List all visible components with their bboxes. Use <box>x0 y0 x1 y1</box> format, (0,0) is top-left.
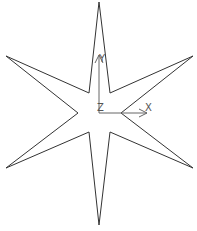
z-axis-label: Z <box>97 102 104 113</box>
star-diagram: Y X Z <box>0 0 197 231</box>
x-axis-label: X <box>145 102 152 113</box>
y-axis-label: Y <box>98 53 106 64</box>
